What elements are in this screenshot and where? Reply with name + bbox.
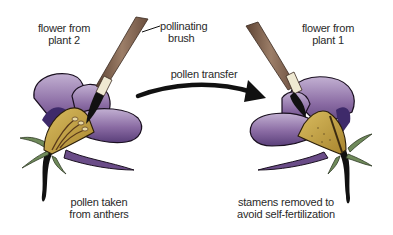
label-pollinating-brush: pollinating brush [160,20,210,44]
left-petal-lower [64,150,134,170]
label-flower-plant-2: flower from plant 2 [34,22,94,46]
label-stamens-removed: stamens removed to avoid self-fertilizat… [236,196,336,220]
right-pollinating-brush [246,22,306,118]
left-flower [20,74,142,202]
pollination-diagram: flower from plant 2 pollinating brush po… [0,0,393,235]
label-pollen-taken: pollen taken from anthers [66,196,132,220]
label-flower-plant-1: flower from plant 1 [298,22,358,46]
right-petal-lower [258,152,328,170]
left-pollinating-brush [86,17,148,124]
brush-pointer-line [142,26,160,32]
label-pollen-transfer: pollen transfer [164,68,244,80]
pollen-transfer-arrow [138,80,266,102]
right-flower [250,77,372,204]
left-stem [42,150,52,202]
